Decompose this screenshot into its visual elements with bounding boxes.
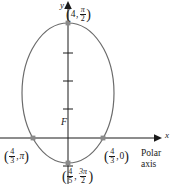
angle-fraction: 3π 2 <box>78 168 88 184</box>
fraction-denominator: 2 <box>80 176 86 184</box>
radius-value: 4 <box>71 10 76 20</box>
polar-axis-caption-line2: axis <box>141 159 161 170</box>
radius-fraction: 4 3 <box>109 148 115 165</box>
x-axis-label: x <box>165 131 169 140</box>
polar-axis-caption: Polar axis <box>141 148 161 170</box>
paren-open: ( <box>62 170 67 184</box>
paren-close: ) <box>86 8 91 22</box>
paren-close: ) <box>89 170 94 184</box>
angle-fraction: π 2 <box>80 6 86 23</box>
point-label-top: ( 4 , π 2 ) <box>66 6 91 23</box>
fraction-numerator: 4 <box>67 168 73 176</box>
focus-label: F <box>61 117 67 127</box>
fraction-numerator: 4 <box>109 148 115 156</box>
comma: , <box>116 152 118 162</box>
fraction-denominator: 3 <box>9 156 15 165</box>
paren-close: ) <box>24 150 29 164</box>
polar-axis-caption-line1: Polar <box>141 148 161 159</box>
fraction-numerator: 3π <box>78 168 88 176</box>
x-axis-arrowhead <box>154 134 162 142</box>
paren-close: ) <box>124 150 129 164</box>
fraction-numerator: π <box>80 6 86 14</box>
comma: , <box>74 172 76 182</box>
point-bottom-vertex <box>66 161 71 166</box>
paren-open: ( <box>4 150 9 164</box>
paren-open: ( <box>104 150 109 164</box>
point-right-directrix <box>101 136 106 141</box>
fraction-denominator: 2 <box>80 14 86 23</box>
point-left-directrix <box>31 136 36 141</box>
fraction-denominator: 3 <box>109 156 115 165</box>
polar-ellipse-figure: y x F Polar axis ( 4 , π 2 ) ( 4 3 , 0 )… <box>0 0 176 184</box>
fraction-numerator: 4 <box>9 148 15 156</box>
comma: , <box>16 152 18 162</box>
radius-fraction: 4 3 <box>9 148 15 165</box>
comma: , <box>76 10 78 20</box>
point-label-bottom: ( 4 5 , 3π 2 ) <box>62 168 93 184</box>
y-axis-label: y <box>60 1 64 10</box>
radius-fraction: 4 5 <box>67 168 73 184</box>
point-label-left: ( 4 3 , π ) <box>4 148 29 165</box>
fraction-denominator: 5 <box>67 176 73 184</box>
point-label-right: ( 4 3 , 0 ) <box>104 148 129 165</box>
